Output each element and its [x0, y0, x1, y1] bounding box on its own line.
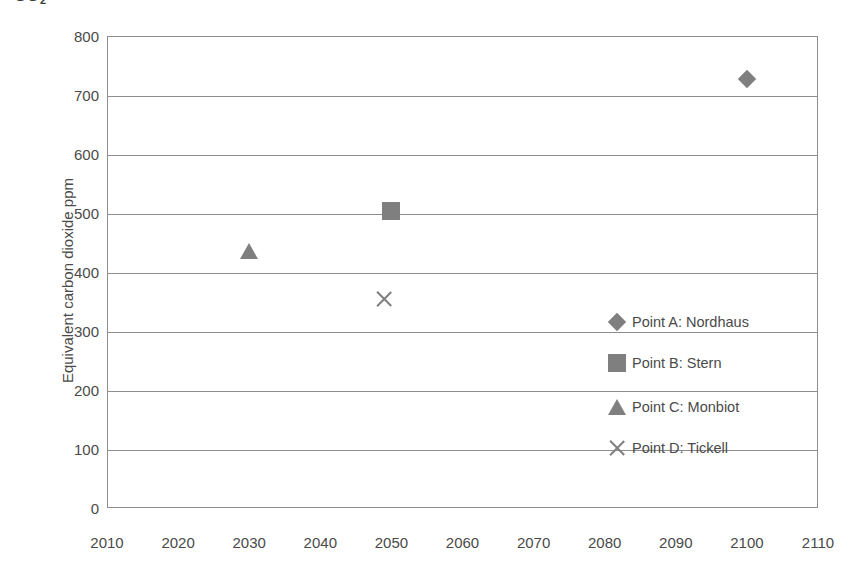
marker-triangle-icon: [608, 399, 626, 415]
y-tick-label-600: 600: [7, 147, 99, 162]
y-tick-label-200: 200: [7, 383, 99, 398]
gridline-500: [108, 214, 817, 215]
legend-item-D[interactable]: Point D: Tickell: [606, 437, 728, 459]
gridline-600: [108, 155, 817, 156]
y-axis-title: Equivalent carbon dioxide ppm: [59, 136, 76, 426]
marker-diamond-icon: [608, 313, 626, 331]
marker-cross-icon: [607, 438, 627, 458]
y-tick-label-800: 800: [7, 29, 99, 44]
x-tick-label-2110: 2110: [778, 534, 848, 552]
gridline-200: [108, 391, 817, 392]
legend-label: Point A: Nordhaus: [632, 314, 749, 330]
legend-marker-triangle-icon: [606, 396, 628, 418]
legend-marker-cross-icon: [606, 437, 628, 459]
y-tick-label-700: 700: [7, 88, 99, 103]
legend-label: Point C: Monbiot: [632, 399, 739, 415]
y-tick-label-300: 300: [7, 324, 99, 339]
y-axis-tick-labels: 0100200300400500600700800: [0, 0, 99, 576]
scatter-chart: 0100200300400500600700800 Equivalent car…: [0, 0, 848, 576]
legend-label: Point B: Stern: [632, 355, 721, 371]
x-axis-tick-labels: 2010202020302040205020602070208020902100…: [0, 534, 848, 560]
y-tick-label-0: 0: [7, 501, 99, 516]
marker-square-icon: [608, 354, 626, 372]
legend-item-B[interactable]: Point B: Stern: [606, 352, 721, 374]
x-tick-label-2010: 2010: [67, 534, 147, 552]
gridline-700: [108, 96, 817, 97]
legend-item-A[interactable]: Point A: Nordhaus: [606, 311, 749, 333]
x-tick-label-2100: 2100: [707, 534, 787, 552]
x-tick-label-2030: 2030: [209, 534, 289, 552]
x-tick-label-2050: 2050: [351, 534, 431, 552]
legend-marker-diamond-icon: [606, 311, 628, 333]
y-tick-label-500: 500: [7, 206, 99, 221]
data-point-D[interactable]: [374, 289, 394, 309]
x-tick-label-2070: 2070: [494, 534, 574, 552]
legend-item-C[interactable]: Point C: Monbiot: [606, 396, 739, 418]
data-point-C[interactable]: [240, 243, 258, 259]
x-tick-label-2020: 2020: [138, 534, 218, 552]
gridline-400: [108, 273, 817, 274]
y-tick-label-100: 100: [7, 442, 99, 457]
x-tick-label-2080: 2080: [565, 534, 645, 552]
x-tick-label-2060: 2060: [423, 534, 503, 552]
data-point-B[interactable]: [382, 202, 400, 220]
x-tick-label-2090: 2090: [636, 534, 716, 552]
y-tick-label-400: 400: [7, 265, 99, 280]
legend-marker-square-icon: [606, 352, 628, 374]
legend-label: Point D: Tickell: [632, 440, 728, 456]
x-tick-label-2040: 2040: [280, 534, 360, 552]
